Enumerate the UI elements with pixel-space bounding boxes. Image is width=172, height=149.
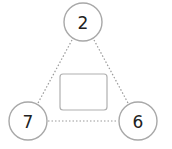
node-right-label: 6 [133, 112, 144, 132]
node-right: 6 [119, 102, 157, 140]
number-triangle-diagram: 2 7 6 [0, 0, 172, 149]
node-left-label: 7 [23, 112, 34, 132]
node-left: 7 [9, 102, 47, 140]
node-top: 2 [64, 3, 102, 41]
node-top-label: 2 [78, 13, 89, 33]
center-answer-box[interactable] [60, 74, 107, 110]
